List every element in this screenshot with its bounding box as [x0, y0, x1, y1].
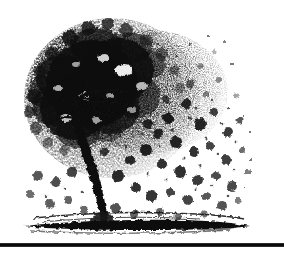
- horizontal-rule: [0, 243, 284, 247]
- tree-illustration: [0, 0, 284, 240]
- page-canvas: Black and white stipple drawing of a lea…: [0, 0, 284, 254]
- tree-drawing-svg: [0, 0, 284, 240]
